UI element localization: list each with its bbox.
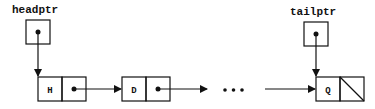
tailptr-label: tailptr	[290, 6, 336, 18]
node-q: Q	[316, 77, 364, 101]
node-value: D	[131, 86, 137, 96]
node-h: H	[38, 77, 121, 101]
headptr-pointer: headptr	[12, 4, 58, 76]
node-value: H	[47, 86, 52, 96]
ellipsis-icon	[223, 88, 244, 92]
headptr-label: headptr	[12, 4, 58, 16]
node-value: Q	[325, 86, 331, 96]
linked-list-diagram: headptr H D tailptr Q	[0, 0, 375, 109]
node-d: D	[122, 77, 207, 101]
null-pointer-icon	[340, 77, 364, 101]
tailptr-pointer: tailptr	[290, 6, 336, 76]
